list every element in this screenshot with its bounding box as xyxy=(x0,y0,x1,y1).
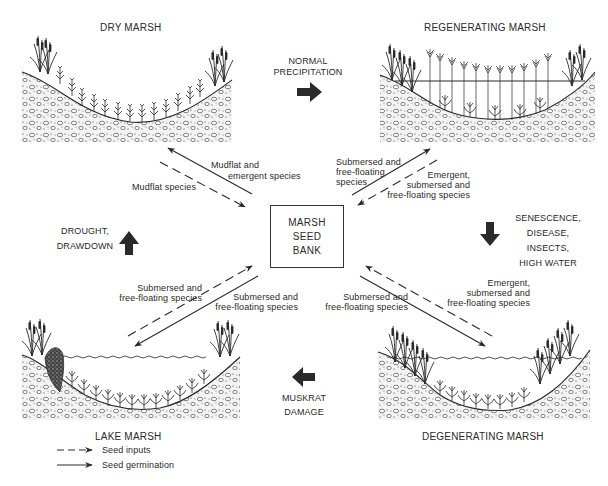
legend-seed-germination: Seed germination xyxy=(102,460,174,471)
arrow-left-icon xyxy=(292,367,315,387)
flow-label-regen-input: Emergent, submersed and free-floating sp… xyxy=(380,170,470,200)
marsh-seed-bank-box: MARSH SEED BANK xyxy=(270,205,344,268)
stage-title-lake: LAKE MARSH xyxy=(95,431,161,443)
transition-label-drought-drawdown: DROUGHT, DRAWDOWN xyxy=(52,224,118,254)
transition-label-normal-precipitation: NORMAL PRECIPITATION xyxy=(268,56,348,78)
stage-title-regenerating: REGENERATING MARSH xyxy=(424,22,546,34)
arrow-down-icon xyxy=(480,222,500,246)
flow-label-degen-germination: Submersed and free-floating species xyxy=(298,292,408,312)
flow-label-lake-germination: Submersed and free-floating species xyxy=(180,292,298,312)
seed-bank-label-line: SEED xyxy=(293,230,321,244)
seed-bank-label-line: BANK xyxy=(293,244,321,258)
stage-title-dry: DRY MARSH xyxy=(100,22,161,34)
seed-bank-label-line: MARSH xyxy=(288,216,326,230)
dry-marsh-illustration xyxy=(22,36,233,142)
degenerating-marsh-illustration xyxy=(378,320,590,420)
flow-label-degen-input: Emergent, submersed and free-floating sp… xyxy=(420,278,530,308)
legend-seed-inputs: Seed inputs xyxy=(102,445,151,456)
regenerating-marsh-illustration xyxy=(380,44,595,142)
arrow-right-icon xyxy=(297,82,322,102)
arrow-up-icon xyxy=(119,231,139,255)
transition-label-senescence: SENESCENCE, DISEASE, INSECTS, HIGH WATER xyxy=(500,211,596,271)
transition-label-muskrat-damage: MUSKRAT DAMAGE xyxy=(272,391,336,419)
stage-title-degenerating: DEGENERATING MARSH xyxy=(422,431,544,443)
flow-label-dry-input: Mudflat species xyxy=(132,182,196,193)
flow-label-dry-germination: Mudflat and emergent species xyxy=(211,160,301,182)
legend-glyphs xyxy=(57,450,92,465)
